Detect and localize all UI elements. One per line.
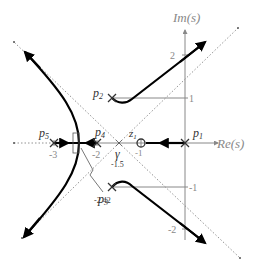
y-axis-label: Im(s) [172, 10, 200, 25]
pole-label-p2: p2 [92, 86, 103, 101]
zero-label-z1: z1 [128, 127, 137, 141]
asymptote-lower-right [119, 143, 240, 258]
centroid-value: -1.5 [111, 160, 124, 169]
branch-breakaway-upper [25, 52, 79, 143]
x-tick-label: -2 [92, 149, 100, 160]
centroid-label: γ [115, 147, 120, 161]
x-axis-label: Re(s) [216, 136, 244, 151]
root-locus-diagram: Im(s) Re(s) -3 -2 -1 2 1 -1 -2 -2.42 [0, 0, 256, 261]
pole-label-p4: p4 [94, 125, 105, 140]
y-tick-label: -1 [189, 182, 197, 193]
y-tick-label: 1 [189, 93, 194, 104]
y-tick-label: -2 [168, 224, 176, 235]
asymptote-upper-right [119, 28, 238, 143]
y-tick-label: 2 [170, 50, 175, 61]
x-tick-label: -1 [135, 148, 143, 158]
x-tick-label: -3 [49, 149, 57, 160]
pole-label-p1: p1 [192, 126, 203, 141]
pole-label-p3: p3 [97, 192, 108, 207]
pole-label-p5: p5 [38, 126, 49, 141]
